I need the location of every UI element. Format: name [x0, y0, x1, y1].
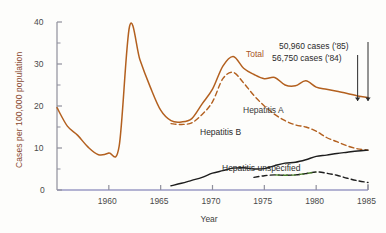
x-tick-label-1975: 1975 [253, 196, 272, 206]
annotation-arrows [355, 42, 371, 101]
annotation-cases-1985: 50,960 cases ('85) [279, 41, 349, 51]
series-label-hepatitis-unspecified: Hepatitis unspecified [222, 163, 300, 173]
series-label-hepatitis-b: Hepatitis B [200, 127, 241, 137]
annotation-cases-1984: 56,750 cases ('84) [272, 53, 342, 63]
arrow-1985-head [365, 97, 370, 101]
hepatitis-incidence-chart: Cases per 100,000 population Year 196019… [0, 0, 386, 233]
x-tick-label-1965: 1965 [150, 196, 169, 206]
arrow-1984-head [355, 97, 360, 101]
x-tick-label-1970: 1970 [202, 196, 221, 206]
chart-plot-area [0, 0, 386, 233]
x-axis-title: Year [201, 214, 218, 224]
series-label-total: Total [246, 49, 264, 59]
x-tick-label-1985: 1985 [357, 196, 376, 206]
y-tick-label-0: 0 [40, 185, 45, 195]
x-tick-label-1960: 1960 [98, 196, 117, 206]
series-label-hepatitis-a: Hepatitis A [243, 105, 284, 115]
y-tick-label-10: 10 [34, 143, 43, 153]
y-axis-title: Cases per 100,000 population [14, 52, 24, 168]
y-tick-label-40: 40 [34, 17, 43, 27]
y-tick-label-30: 30 [34, 59, 43, 69]
x-tick-label-1980: 1980 [305, 196, 324, 206]
y-tick-label-20: 20 [34, 101, 43, 111]
